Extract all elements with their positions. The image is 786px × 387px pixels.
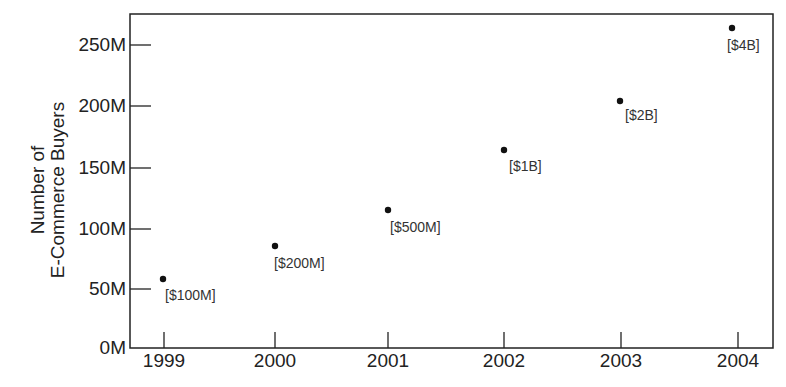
data-point — [272, 243, 278, 249]
plot-area — [0, 0, 786, 387]
chart: Number of E-Commerce Buyers 0M 50M 100M … — [0, 0, 786, 387]
point-annotation: [$1B] — [509, 158, 542, 174]
point-annotation: [$200M] — [274, 255, 325, 271]
x-tick-marks — [164, 332, 738, 348]
point-annotation: [$500M] — [390, 219, 441, 235]
data-point — [385, 207, 391, 213]
data-point — [617, 98, 623, 104]
point-annotation: [$100M] — [165, 287, 216, 303]
point-annotation: [$2B] — [625, 107, 658, 123]
x-tick-label: 2003 — [600, 350, 642, 372]
data-point — [501, 147, 507, 153]
data-point — [729, 25, 735, 31]
x-tick-label: 2001 — [367, 350, 409, 372]
data-point — [160, 276, 166, 282]
point-annotation: [$4B] — [727, 37, 760, 53]
x-tick-label: 2002 — [483, 350, 525, 372]
x-tick-label: 2004 — [717, 350, 759, 372]
data-points — [160, 25, 735, 282]
y-tick-marks — [130, 45, 151, 289]
plot-frame — [130, 14, 773, 348]
x-tick-label: 2000 — [254, 350, 296, 372]
x-tick-label: 1999 — [143, 350, 185, 372]
